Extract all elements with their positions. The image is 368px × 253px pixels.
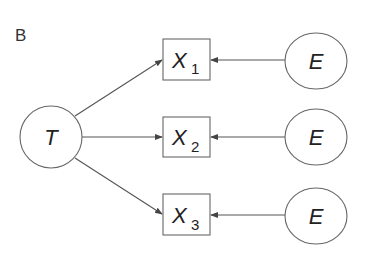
node-x3-label: X	[171, 203, 188, 228]
node-x1: X 1	[163, 39, 210, 80]
node-e2-label: E	[309, 125, 324, 150]
edge-t-x1	[75, 60, 162, 116]
node-x2-subscript: 2	[191, 138, 199, 155]
node-e3-label: E	[309, 204, 324, 229]
node-x1-subscript: 1	[191, 60, 199, 77]
node-x3-subscript: 3	[191, 216, 199, 233]
node-x3: X 3	[163, 194, 210, 235]
node-t: T	[20, 106, 82, 168]
node-t-label: T	[44, 125, 59, 150]
node-e1: E	[285, 33, 347, 89]
node-x2-label: X	[171, 125, 188, 150]
edge-t-x3	[75, 158, 162, 214]
node-e3: E	[285, 188, 347, 244]
node-x2: X 2	[163, 117, 210, 157]
node-x1-label: X	[171, 48, 188, 73]
node-e1-label: E	[309, 49, 324, 74]
node-e2: E	[285, 109, 347, 165]
path-diagram: T X 1 X 2 X 3 E E E	[0, 0, 368, 253]
